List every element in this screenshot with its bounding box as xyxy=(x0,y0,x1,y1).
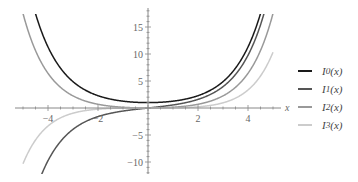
y-tick-label: −5 xyxy=(132,130,143,141)
series-line-1 xyxy=(41,6,267,177)
legend-swatch xyxy=(298,70,312,72)
legend-item-i3: I3(x) xyxy=(298,116,342,134)
legend-item-i2: I2(x) xyxy=(298,98,342,116)
x-tick-label: 2 xyxy=(196,113,201,124)
x-axis-label: x xyxy=(284,102,290,113)
x-tick-label: −4 xyxy=(43,113,54,124)
legend: I0(x) I1(x) I2(x) I3(x) xyxy=(298,62,342,134)
x-tick-label: −2 xyxy=(93,113,104,124)
legend-item-i1: I1(x) xyxy=(298,80,342,98)
y-tick-label: 10 xyxy=(133,49,143,60)
legend-swatch xyxy=(298,124,312,126)
y-tick-label: −10 xyxy=(127,157,143,168)
legend-swatch xyxy=(298,106,312,108)
y-tick-label: 15 xyxy=(133,22,143,33)
x-tick-label: 4 xyxy=(246,113,251,124)
legend-swatch xyxy=(298,88,312,90)
y-tick-label: 5 xyxy=(138,76,143,87)
legend-item-i0: I0(x) xyxy=(298,62,342,80)
